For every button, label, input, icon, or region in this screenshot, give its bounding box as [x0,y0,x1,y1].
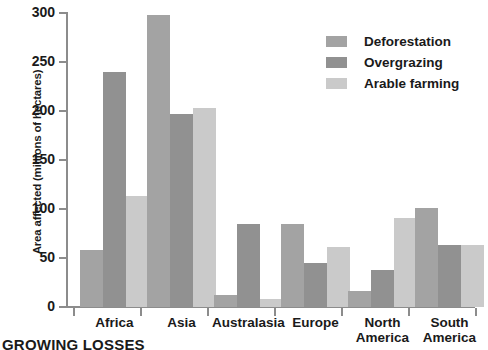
bar-group [214,13,283,307]
y-axis-tick-label: 250 [32,52,55,70]
y-axis-tick-label: 0 [47,297,55,315]
legend-label: Arable farming [364,76,459,91]
bar [394,218,417,307]
bar [415,208,438,307]
bar [170,114,193,307]
legend-item: Deforestation [326,31,459,52]
bar [371,270,394,307]
bar [304,263,327,307]
y-axis-tick-mark [59,159,67,161]
bar [214,295,237,307]
bar [461,245,484,307]
bar [327,247,350,307]
bar [281,224,304,307]
bar [348,291,371,307]
x-axis-category-label: SouthAmerica [400,315,488,345]
legend-swatch [326,57,347,68]
chart-legend: DeforestationOvergrazingArable farming [326,31,459,94]
y-axis-tick-label: 50 [39,248,55,266]
bar [126,196,149,307]
legend-label: Deforestation [364,34,451,49]
legend-item: Arable farming [326,73,459,94]
legend-swatch [326,36,347,47]
bar [193,108,216,307]
legend-label: Overgrazing [364,55,443,70]
y-axis-tick-mark [59,12,67,14]
y-axis-tick-label: 200 [32,101,55,119]
bar [260,299,283,307]
legend-item: Overgrazing [326,52,459,73]
bar-group [147,13,216,307]
bar-group [80,13,149,307]
chart-caption: GROWING LOSSES [2,336,145,350]
y-axis-tick-mark [59,306,67,308]
bar [438,245,461,307]
bar [80,250,103,307]
legend-swatch [326,78,347,89]
bar [237,224,260,307]
y-axis-tick-label: 150 [32,150,55,168]
y-axis-tick-label: 300 [32,3,55,21]
bar [103,72,126,307]
bar [147,15,170,307]
y-axis-tick-mark [59,110,67,112]
y-axis-tick-mark [59,257,67,259]
y-axis-tick-mark [59,61,67,63]
y-axis-tick-label: 100 [32,199,55,217]
y-axis-tick-mark [59,208,67,210]
